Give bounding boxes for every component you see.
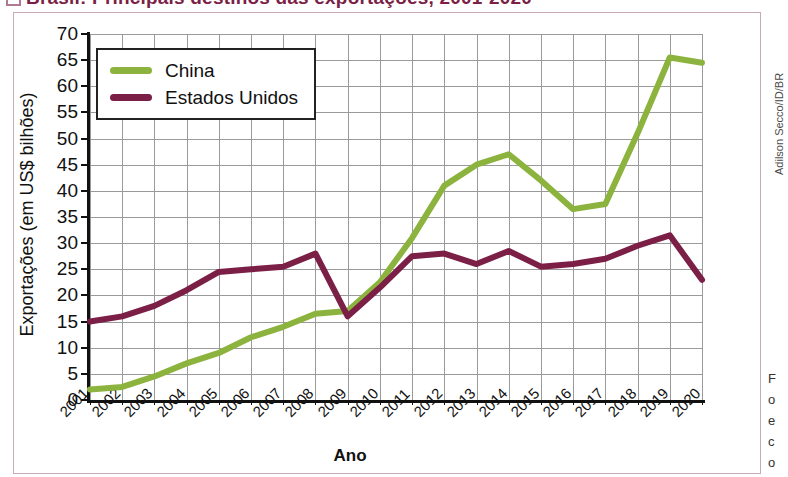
y-tick <box>81 190 89 192</box>
y-tick-label: 20 <box>57 284 78 306</box>
legend-swatch-estados-unidos <box>110 94 152 101</box>
y-tick <box>81 164 89 166</box>
side-caption-line: o <box>766 452 788 473</box>
y-tick <box>81 242 89 244</box>
side-caption-line: e <box>766 410 788 431</box>
series-line-estados-unidos <box>90 235 702 321</box>
side-caption-line: F <box>766 368 788 389</box>
legend-item-estados-unidos: Estados Unidos <box>110 84 298 111</box>
y-tick-label: 25 <box>57 258 78 280</box>
chart-legend: China Estados Unidos <box>96 48 316 120</box>
y-tick <box>81 111 89 113</box>
y-tick-label: 50 <box>57 128 78 150</box>
y-tick-label: 10 <box>57 337 78 359</box>
y-axis-title-text: Exportações (em US$ bilhões) <box>17 50 38 380</box>
title-bullet-icon <box>6 0 21 6</box>
legend-label-china: China <box>165 60 215 82</box>
y-tick <box>81 216 89 218</box>
y-tick <box>81 33 89 35</box>
figure-page: Brasil: Principais destinos das exportaç… <box>0 0 788 477</box>
legend-item-china: China <box>110 57 298 84</box>
y-tick-label: 70 <box>57 23 78 45</box>
x-tick <box>702 400 703 405</box>
y-tick-label: 15 <box>57 311 78 333</box>
page-title: Brasil: Principais destinos das exportaç… <box>26 0 532 9</box>
y-tick-label: 45 <box>57 154 78 176</box>
x-axis-title: Ano <box>0 446 700 466</box>
y-tick <box>81 59 89 61</box>
y-tick-label: 65 <box>57 49 78 71</box>
image-credit-text: Adilson Secco/ID/BR <box>773 5 785 175</box>
gridline-vertical <box>702 34 703 400</box>
side-caption-line: c <box>766 431 788 452</box>
y-tick <box>81 268 89 270</box>
image-credit: Adilson Secco/ID/BR <box>766 4 786 204</box>
y-tick <box>81 373 89 375</box>
y-tick <box>81 85 89 87</box>
legend-swatch-china <box>110 67 152 74</box>
y-tick-label: 5 <box>67 363 78 385</box>
y-axis-title: Exportações (em US$ bilhões) <box>14 34 40 400</box>
y-tick-label: 40 <box>57 180 78 202</box>
legend-label-estados-unidos: Estados Unidos <box>165 87 298 109</box>
side-caption: F o e c o <box>766 368 788 476</box>
y-tick-label: 30 <box>57 232 78 254</box>
y-tick <box>81 347 89 349</box>
chart-title-strip: Brasil: Principais destinos das exportaç… <box>0 0 788 11</box>
y-tick-label: 60 <box>57 75 78 97</box>
y-tick <box>81 294 89 296</box>
y-tick <box>81 138 89 140</box>
y-tick-label: 35 <box>57 206 78 228</box>
side-caption-line: o <box>766 389 788 410</box>
y-tick-label: 55 <box>57 101 78 123</box>
